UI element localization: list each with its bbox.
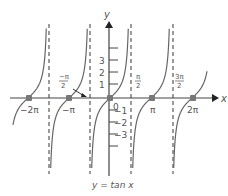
half-pi-numerator: π <box>136 73 141 81</box>
tan-graph: y x 0 −2π −π π 2π −π 2 π 2 3π 2 3 2 1 −1… <box>0 0 228 196</box>
tick-neg-pi: −π <box>62 105 76 115</box>
x-axis-arrow-icon <box>212 94 219 102</box>
pointer-arrow-icon <box>81 93 87 97</box>
three-half-pi-numerator: 3π <box>175 73 184 81</box>
y-tick-2: 2 <box>99 68 105 78</box>
y-tick-1: 1 <box>99 80 105 90</box>
neg-half-pi-numerator: −π <box>59 73 70 81</box>
three-half-pi-denominator: 2 <box>177 82 181 90</box>
half-pi-denominator: 2 <box>136 82 140 90</box>
y-tick-neg-1: −1 <box>114 106 127 116</box>
y-tick-3: 3 <box>99 56 105 66</box>
y-axis-label: y <box>103 9 111 20</box>
x-axis-label: x <box>220 93 227 104</box>
y-tick-neg-2: −2 <box>114 118 127 128</box>
y-axis-arrow-icon <box>105 21 113 28</box>
tick-2pi: 2π <box>187 105 199 115</box>
neg-half-pi-denominator: 2 <box>61 82 65 90</box>
tick-neg-2pi: −2π <box>20 105 39 115</box>
tick-pi: π <box>150 105 156 115</box>
chart-caption: y = tan x <box>91 180 134 190</box>
y-tick-neg-3: −3 <box>114 130 127 140</box>
